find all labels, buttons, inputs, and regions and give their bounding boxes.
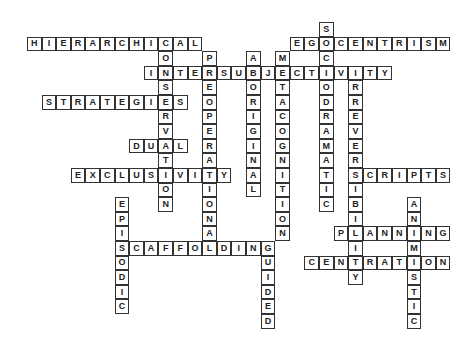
crossword-cell[interactable]: U — [129, 168, 144, 183]
crossword-cell[interactable]: T — [377, 37, 392, 52]
crossword-cell[interactable]: S — [42, 95, 57, 110]
crossword-cell[interactable]: O — [158, 183, 173, 198]
crossword-cell[interactable]: G — [436, 226, 451, 241]
crossword-cell[interactable]: D — [261, 314, 276, 329]
crossword-cell[interactable]: A — [202, 153, 217, 168]
crossword-cell[interactable]: T — [275, 80, 290, 95]
crossword-cell[interactable]: S — [319, 22, 334, 37]
crossword-cell[interactable]: A — [246, 168, 261, 183]
crossword-cell[interactable]: A — [85, 95, 100, 110]
crossword-cell[interactable]: G — [261, 241, 276, 256]
crossword-cell[interactable]: L — [173, 139, 188, 154]
crossword-cell[interactable]: I — [188, 168, 203, 183]
crossword-cell[interactable]: I — [246, 110, 261, 125]
crossword-cell[interactable]: B — [348, 197, 363, 212]
crossword-cell[interactable]: T — [202, 168, 217, 183]
crossword-cell[interactable]: N — [246, 241, 261, 256]
crossword-cell[interactable]: L — [348, 226, 363, 241]
crossword-cell[interactable]: C — [115, 299, 130, 314]
crossword-cell[interactable]: R — [158, 110, 173, 125]
crossword-cell[interactable]: R — [71, 37, 86, 52]
crossword-cell[interactable]: C — [363, 168, 378, 183]
crossword-cell[interactable]: A — [319, 124, 334, 139]
crossword-cell[interactable]: X — [85, 168, 100, 183]
crossword-cell[interactable]: E — [261, 299, 276, 314]
crossword-cell[interactable]: V — [173, 168, 188, 183]
crossword-cell[interactable]: N — [158, 66, 173, 81]
crossword-cell[interactable]: D — [319, 95, 334, 110]
crossword-cell[interactable]: A — [158, 139, 173, 154]
crossword-cell[interactable]: D — [115, 270, 130, 285]
crossword-cell[interactable]: C — [407, 314, 422, 329]
crossword-cell[interactable]: T — [158, 153, 173, 168]
crossword-cell[interactable]: S — [217, 66, 232, 81]
crossword-cell[interactable]: A — [144, 241, 159, 256]
crossword-cell[interactable]: O — [275, 124, 290, 139]
crossword-cell[interactable]: A — [363, 226, 378, 241]
crossword-cell[interactable]: A — [275, 95, 290, 110]
crossword-cell[interactable]: T — [392, 256, 407, 271]
crossword-cell[interactable]: I — [261, 270, 276, 285]
crossword-cell[interactable]: A — [246, 51, 261, 66]
crossword-cell[interactable]: C — [304, 256, 319, 271]
crossword-cell[interactable]: E — [202, 124, 217, 139]
crossword-cell[interactable]: E — [348, 139, 363, 154]
crossword-cell[interactable]: E — [319, 256, 334, 271]
crossword-cell[interactable]: H — [129, 37, 144, 52]
crossword-cell[interactable]: R — [348, 95, 363, 110]
crossword-cell[interactable]: Y — [348, 270, 363, 285]
crossword-cell[interactable]: I — [319, 183, 334, 198]
crossword-cell[interactable]: N — [407, 212, 422, 227]
crossword-cell[interactable]: D — [261, 285, 276, 300]
crossword-cell[interactable]: I — [202, 183, 217, 198]
crossword-cell[interactable]: C — [319, 197, 334, 212]
crossword-cell[interactable]: I — [231, 241, 246, 256]
crossword-cell[interactable]: J — [261, 66, 276, 81]
crossword-cell[interactable]: I — [144, 66, 159, 81]
crossword-cell[interactable]: C — [100, 168, 115, 183]
crossword-cell[interactable]: O — [319, 37, 334, 52]
crossword-cell[interactable]: R — [392, 37, 407, 52]
crossword-cell[interactable]: I — [275, 168, 290, 183]
crossword-cell[interactable]: C — [129, 241, 144, 256]
crossword-cell[interactable]: A — [319, 153, 334, 168]
crossword-cell[interactable]: P — [202, 51, 217, 66]
crossword-cell[interactable]: Y — [377, 66, 392, 81]
crossword-cell[interactable]: C — [115, 37, 130, 52]
crossword-cell[interactable]: I — [407, 256, 422, 271]
crossword-cell[interactable]: R — [377, 168, 392, 183]
crossword-cell[interactable]: S — [348, 168, 363, 183]
crossword-cell[interactable]: R — [348, 80, 363, 95]
crossword-cell[interactable]: F — [158, 241, 173, 256]
crossword-cell[interactable]: E — [56, 37, 71, 52]
crossword-cell[interactable]: E — [158, 95, 173, 110]
crossword-cell[interactable]: R — [348, 153, 363, 168]
crossword-cell[interactable]: I — [42, 37, 57, 52]
crossword-cell[interactable]: T — [275, 183, 290, 198]
crossword-cell[interactable]: R — [246, 95, 261, 110]
crossword-cell[interactable]: V — [334, 66, 349, 81]
crossword-cell[interactable]: E — [115, 95, 130, 110]
crossword-cell[interactable]: U — [231, 66, 246, 81]
crossword-cell[interactable]: N — [436, 256, 451, 271]
crossword-cell[interactable]: O — [246, 80, 261, 95]
crossword-cell[interactable]: A — [173, 37, 188, 52]
crossword-cell[interactable]: R — [71, 95, 86, 110]
crossword-cell[interactable]: B — [246, 66, 261, 81]
crossword-cell[interactable]: I — [319, 66, 334, 81]
crossword-cell[interactable]: N — [275, 226, 290, 241]
crossword-cell[interactable]: D — [217, 241, 232, 256]
crossword-cell[interactable]: P — [202, 110, 217, 125]
crossword-cell[interactable]: E — [348, 110, 363, 125]
crossword-cell[interactable]: O — [158, 51, 173, 66]
crossword-cell[interactable]: V — [158, 124, 173, 139]
crossword-cell[interactable]: N — [246, 153, 261, 168]
crossword-cell[interactable]: L — [115, 168, 130, 183]
crossword-cell[interactable]: C — [290, 66, 305, 81]
crossword-cell[interactable]: E — [115, 197, 130, 212]
crossword-cell[interactable]: F — [173, 241, 188, 256]
crossword-cell[interactable]: N — [334, 256, 349, 271]
crossword-cell[interactable]: M — [319, 139, 334, 154]
crossword-cell[interactable]: S — [115, 241, 130, 256]
crossword-cell[interactable]: I — [407, 37, 422, 52]
